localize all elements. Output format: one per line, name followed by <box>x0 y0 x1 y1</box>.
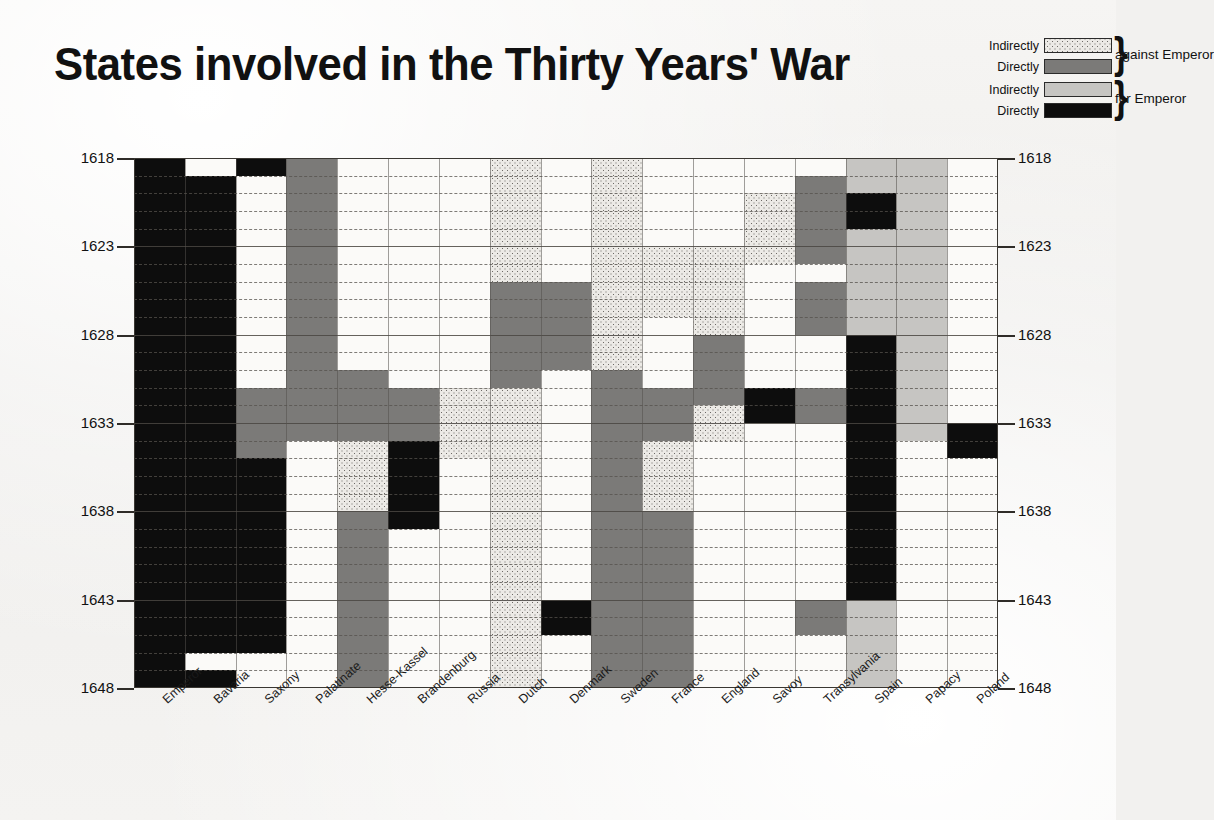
heatmap-cell <box>947 193 998 211</box>
heatmap-cell <box>439 299 490 317</box>
heatmap-cell <box>896 423 947 441</box>
heatmap-cell <box>388 193 439 211</box>
heatmap-cell <box>388 335 439 353</box>
legend-item[interactable]: Directly <box>812 57 1112 76</box>
heatmap-cell <box>134 370 185 388</box>
heatmap-cell <box>286 158 337 176</box>
heatmap-cell <box>185 494 236 512</box>
heatmap-cell <box>134 158 185 176</box>
heatmap-cell <box>795 317 846 335</box>
y-axis-tick-mark-left <box>117 246 134 248</box>
heatmap-cell <box>490 476 541 494</box>
heatmap-cell <box>947 511 998 529</box>
heatmap-cell <box>642 352 693 370</box>
heatmap-cell <box>134 458 185 476</box>
heatmap-cell <box>134 564 185 582</box>
heatmap-cell <box>286 299 337 317</box>
y-axis-tick-mark-left <box>117 511 134 513</box>
legend-item-label: Directly <box>997 104 1039 118</box>
heatmap-cell <box>337 352 388 370</box>
heatmap-column <box>541 158 592 688</box>
y-axis-tick-mark-right <box>998 511 1015 513</box>
heatmap-cell <box>846 564 897 582</box>
heatmap-cell <box>236 229 287 247</box>
heatmap-cell <box>541 476 592 494</box>
heatmap-cell <box>134 494 185 512</box>
heatmap-cell <box>642 211 693 229</box>
heatmap-cell <box>286 458 337 476</box>
heatmap-cell <box>541 423 592 441</box>
heatmap-cell <box>642 370 693 388</box>
heatmap-cell <box>642 335 693 353</box>
heatmap-cell <box>846 299 897 317</box>
heatmap-cell <box>185 299 236 317</box>
heatmap-cell <box>337 370 388 388</box>
heatmap-cell <box>795 158 846 176</box>
heatmap-cell <box>185 423 236 441</box>
heatmap-cell <box>286 335 337 353</box>
heatmap-cell <box>947 600 998 618</box>
legend-item[interactable]: Directly <box>812 101 1112 120</box>
heatmap-cell <box>896 653 947 671</box>
heatmap-cell <box>388 229 439 247</box>
heatmap-cell <box>642 282 693 300</box>
y-axis-tick-label-right: 1648 <box>1018 679 1051 696</box>
heatmap-cell <box>236 458 287 476</box>
heatmap-cell <box>744 282 795 300</box>
heatmap-cell <box>134 388 185 406</box>
heatmap-cell <box>337 335 388 353</box>
heatmap-cell <box>388 423 439 441</box>
heatmap-cell <box>439 388 490 406</box>
heatmap-cell <box>896 246 947 264</box>
heatmap-cell <box>693 193 744 211</box>
heatmap-cell <box>490 441 541 459</box>
heatmap-cell <box>693 352 744 370</box>
heatmap-cell <box>286 564 337 582</box>
heatmap-cell <box>541 193 592 211</box>
heatmap-cell <box>744 635 795 653</box>
heatmap-cell <box>591 441 642 459</box>
legend-item[interactable]: Indirectly <box>812 36 1112 55</box>
heatmap-cell <box>642 264 693 282</box>
heatmap-cell <box>439 158 490 176</box>
heatmap-cell <box>388 511 439 529</box>
heatmap-cell <box>591 423 642 441</box>
heatmap-column <box>337 158 388 688</box>
heatmap-cell <box>795 423 846 441</box>
heatmap-cell <box>134 246 185 264</box>
heatmap-cell <box>286 193 337 211</box>
heatmap-cell <box>744 335 795 353</box>
heatmap-cell <box>591 635 642 653</box>
heatmap-cell <box>896 264 947 282</box>
heatmap-cell <box>134 193 185 211</box>
heatmap-cell <box>896 176 947 194</box>
heatmap-cell <box>337 264 388 282</box>
heatmap-cell <box>337 617 388 635</box>
plot-area <box>134 158 998 688</box>
heatmap-cell <box>490 423 541 441</box>
heatmap-cell <box>236 299 287 317</box>
legend-item[interactable]: Indirectly <box>812 80 1112 99</box>
heatmap-cell <box>388 264 439 282</box>
heatmap-cell <box>846 229 897 247</box>
heatmap-cell <box>286 317 337 335</box>
heatmap-cell <box>337 529 388 547</box>
heatmap-column <box>439 158 490 688</box>
heatmap-cell <box>795 352 846 370</box>
legend-item-label: Directly <box>997 60 1039 74</box>
heatmap-cell <box>693 405 744 423</box>
heatmap-cell <box>795 405 846 423</box>
heatmap-cell <box>896 511 947 529</box>
heatmap-cell <box>947 494 998 512</box>
heatmap-cell <box>744 600 795 618</box>
heatmap-cell <box>947 229 998 247</box>
heatmap-cell <box>896 352 947 370</box>
heatmap-cell <box>185 370 236 388</box>
heatmap-cell <box>795 600 846 618</box>
heatmap-cell <box>134 582 185 600</box>
heatmap-cell <box>337 511 388 529</box>
heatmap-cell <box>642 229 693 247</box>
heatmap-cell <box>846 423 897 441</box>
heatmap-cell <box>541 246 592 264</box>
heatmap-cell <box>185 405 236 423</box>
